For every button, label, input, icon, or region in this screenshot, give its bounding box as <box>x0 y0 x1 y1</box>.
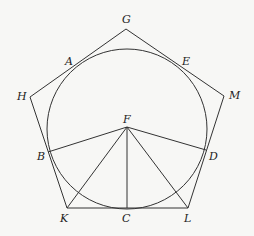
label-point-f: F <box>122 113 131 126</box>
segment-fl <box>127 127 188 208</box>
segment-fd <box>127 127 206 150</box>
label-point-k: K <box>59 212 69 225</box>
label-point-m: M <box>228 89 241 102</box>
label-point-b: B <box>36 150 45 163</box>
geometry-diagram: GMLKHAEDBCF <box>0 0 254 236</box>
label-point-h: H <box>16 90 27 103</box>
label-point-c: C <box>122 212 131 225</box>
label-point-d: D <box>208 150 218 163</box>
segment-fk <box>67 127 127 208</box>
segment-fb <box>48 127 127 152</box>
center-segments <box>48 127 206 208</box>
label-point-l: L <box>183 212 191 225</box>
label-point-g: G <box>122 13 131 26</box>
label-point-e: E <box>181 55 190 68</box>
label-point-a: A <box>64 55 73 68</box>
point-labels: GMLKHAEDBCF <box>16 13 241 225</box>
